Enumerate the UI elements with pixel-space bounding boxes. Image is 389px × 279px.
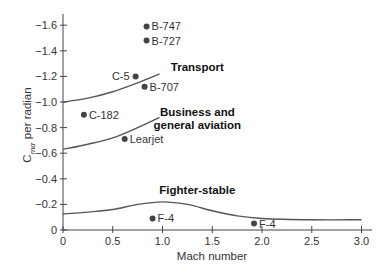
data-point bbox=[150, 215, 156, 221]
y-tick-label: −0.8 bbox=[35, 122, 57, 134]
group-label: Fighter-stable bbox=[159, 184, 235, 196]
data-point-label: C-5 bbox=[112, 70, 130, 82]
data-point-label: C-182 bbox=[89, 109, 119, 121]
data-point-label: F-4 bbox=[158, 212, 175, 224]
y-tick-label: −0.6 bbox=[35, 147, 57, 159]
y-tick-label: −1.6 bbox=[35, 19, 57, 31]
y-axis-title-main: C bbox=[21, 154, 33, 162]
x-tick-label: 2.0 bbox=[254, 235, 269, 247]
data-point-label: B-727 bbox=[152, 35, 181, 47]
data-point bbox=[144, 38, 150, 44]
y-tick-label: −1.4 bbox=[35, 45, 57, 57]
data-point bbox=[142, 84, 148, 90]
x-tick-label: 1.0 bbox=[155, 235, 170, 247]
data-point-label: F-4 bbox=[259, 218, 276, 230]
y-tick-label: −0.4 bbox=[35, 173, 57, 185]
y-axis-title-sub: mα bbox=[28, 143, 37, 155]
x-tick-label: 3.0 bbox=[354, 235, 369, 247]
x-tick-label: 0 bbox=[60, 235, 66, 247]
data-point bbox=[251, 221, 257, 227]
x-tick-label: 2.5 bbox=[304, 235, 319, 247]
x-tick-label: 0.5 bbox=[105, 235, 120, 247]
data-point bbox=[81, 112, 87, 118]
group-label: Transport bbox=[171, 61, 224, 73]
data-point-label: B-707 bbox=[150, 81, 179, 93]
y-tick-label: −1.0 bbox=[35, 96, 57, 108]
data-point bbox=[122, 136, 128, 142]
y-tick-label: −0.2 bbox=[35, 198, 57, 210]
y-axis-title-rest: per radian bbox=[21, 87, 33, 139]
chart: 00.51.01.52.02.53.00−0.2−0.4−0.6−0.8−1.0… bbox=[0, 0, 389, 279]
data-point bbox=[133, 73, 139, 79]
group-label: general aviation bbox=[154, 119, 242, 131]
curves bbox=[63, 74, 362, 220]
y-tick-label: 0 bbox=[51, 224, 57, 236]
x-axis-title: Mach number bbox=[177, 250, 247, 262]
x-tick-label: 1.5 bbox=[205, 235, 220, 247]
data-point-label: B-747 bbox=[152, 20, 181, 32]
curve-fighter-stable bbox=[63, 202, 362, 220]
data-point-label: Learjet bbox=[130, 133, 164, 145]
y-tick-label: −1.2 bbox=[35, 70, 57, 82]
group-label: Business and bbox=[160, 106, 235, 118]
data-point bbox=[144, 23, 150, 29]
